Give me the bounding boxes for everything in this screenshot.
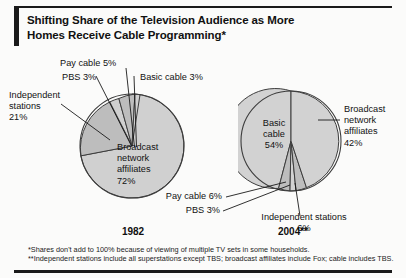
leader-pay-2004: [226, 182, 286, 197]
label-broadcast-2004: Broadcast network affiliates 42%: [344, 104, 404, 149]
footnote-line-1: *Shares don't add to 100% because of vie…: [28, 245, 400, 254]
footnote-line-2: **Independent stations include all super…: [28, 254, 400, 263]
label-basic-cable-2004: Basic cable 54%: [252, 118, 296, 152]
year-label-2004: 2004**: [263, 226, 323, 237]
label-pay-cable-2004: Pay cable 6%: [142, 191, 222, 202]
bottom-rule: [14, 270, 392, 273]
tv-audience-share-figure: Shifting Share of the Television Audienc…: [0, 0, 406, 278]
leader-pbs-2004: [223, 185, 290, 211]
footnotes: *Shares don't add to 100% because of vie…: [28, 245, 400, 264]
label-pbs-2004: PBS 3%: [152, 205, 220, 216]
